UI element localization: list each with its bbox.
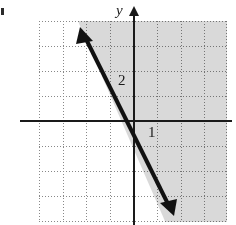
line-arrow-up-icon: [76, 27, 93, 44]
tick-label-y-2: 2: [118, 73, 126, 88]
line-arrow-down-icon: [160, 199, 177, 216]
boundary-line-layer: [0, 0, 236, 225]
tick-label-x-1: 1: [148, 125, 156, 140]
boundary-line: [84, 35, 170, 208]
y-axis-label: y: [116, 3, 123, 18]
figure-canvas: y 2 1: [0, 0, 236, 225]
